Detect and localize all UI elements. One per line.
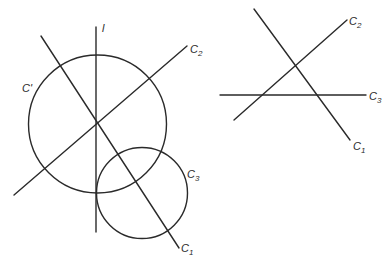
circle-c3	[97, 148, 188, 239]
line-c1	[41, 36, 179, 248]
line-c1-right	[254, 9, 350, 140]
label-c1-right: C1	[353, 140, 365, 155]
line-c2-right	[234, 20, 347, 120]
diagram-canvas: l C' C2 C3 C1 C2 C3 C1	[0, 0, 388, 262]
label-c2-right: C2	[349, 15, 362, 30]
right-figure: C2 C3 C1	[220, 9, 382, 155]
label-l: l	[102, 22, 105, 34]
label-c1-left: C1	[181, 242, 193, 257]
left-figure: l C' C2 C3 C1	[14, 22, 203, 257]
label-c-prime: C'	[22, 82, 33, 94]
label-c2-left: C2	[190, 43, 203, 58]
line-c2	[14, 46, 187, 195]
label-c3-right: C3	[369, 90, 382, 105]
label-c3-left: C3	[187, 168, 200, 183]
